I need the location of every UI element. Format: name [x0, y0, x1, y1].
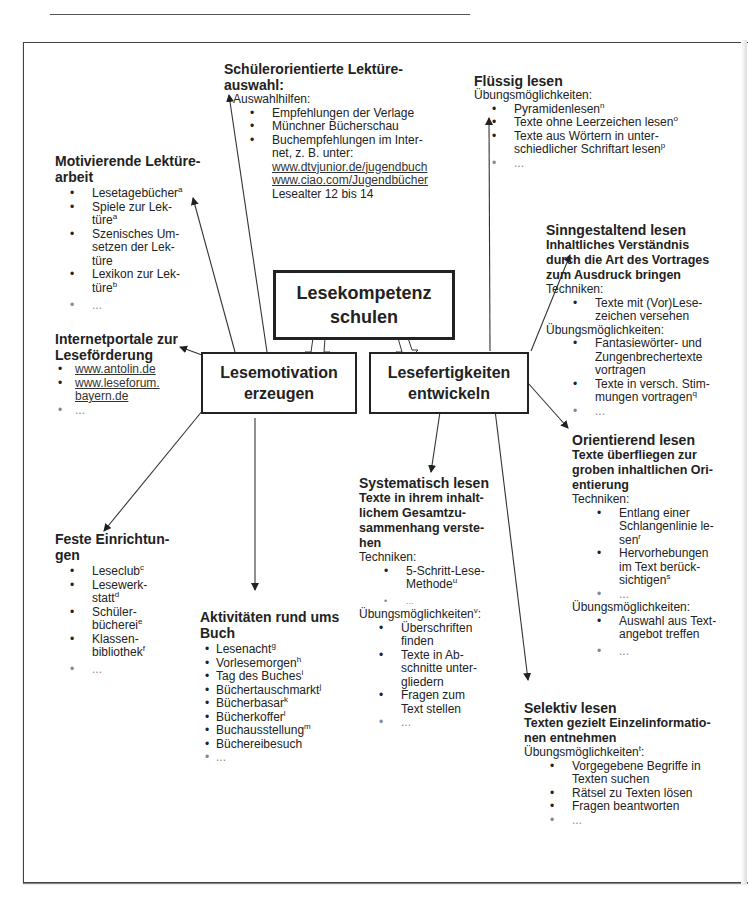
- list-item: ...: [462, 157, 734, 171]
- list-item: Empfehlungen der Verlage: [220, 107, 474, 121]
- node-subtitle: Inhaltliches Verständnisdurch die Art de…: [546, 238, 736, 283]
- link-dtvjunior[interactable]: www.dtvjunior.de/jugendbuch: [272, 160, 427, 174]
- list-item: ...: [40, 299, 215, 313]
- list-item: Fantasiewörter- undZungenbrechertextevor…: [543, 337, 736, 378]
- list-item: Szenisches Um-setzen der Lek-türe: [40, 228, 215, 269]
- node-fluessig-lesen: Flüssig lesen Übungsmöglichkeiten: Pyram…: [474, 73, 734, 170]
- label-techniken: Techniken:: [546, 283, 736, 297]
- center-box-lesekompetenz: Lesekompetenz schulen: [273, 270, 455, 340]
- list-item: Vorlesemorgenh: [200, 657, 360, 671]
- note-lesealter: Lesealter 12 bis 14: [272, 187, 373, 201]
- node-title: Sinngestaltend lesen: [546, 222, 736, 238]
- list-item: ...: [543, 405, 736, 419]
- list-item: ...: [349, 716, 509, 730]
- list-item: Lexikon zur Lek-türeb: [40, 268, 215, 295]
- node-subtitle: Texte in ihrem inhalt-lichem Gesamtzu-sa…: [359, 491, 509, 551]
- list-item: Rätsel zu Texten lösen: [520, 787, 739, 801]
- label-techniken: Techniken:: [359, 551, 509, 565]
- center-title-line1: Lesekompetenz: [296, 281, 431, 305]
- list-item: Lesetagebüchera: [40, 187, 215, 201]
- list-item: Leseclubc: [40, 565, 195, 579]
- node-orientierend: Orientierend lesen Texte überfliegen zur…: [572, 432, 742, 658]
- label-uebungen: Übungsmöglichkeitent:: [524, 746, 739, 760]
- list-item: ...: [354, 595, 509, 609]
- label-auswahlhilfen: Auswahlhilfen:: [224, 93, 474, 107]
- label-uebungen: Übungsmöglichkeiten:: [572, 601, 742, 615]
- list-item: ...: [200, 751, 360, 765]
- label-techniken: Techniken:: [572, 493, 742, 507]
- list-item: Bücherbasark: [200, 697, 360, 711]
- node-schuelerorientiert: Schülerorientierte Lektüre-auswahl: Ausw…: [224, 61, 474, 201]
- list-item: Buchempfehlungen im Inter-net, z. B. unt…: [220, 134, 474, 202]
- node-title: Feste Einrichtun-gen: [55, 531, 195, 563]
- list-item: Texte in Ab-schnitte unter-gliedern: [349, 649, 509, 690]
- node-feste-einrichtungen: Feste Einrichtun-gen Leseclubc Lesewerk-…: [55, 531, 195, 676]
- list-item: ...: [53, 404, 195, 418]
- list-item: Fragen beantworten: [520, 800, 739, 814]
- list-item: Lesenachtg: [200, 643, 360, 657]
- node-subtitle: Texten gezielt Einzelinformatio-nen entn…: [524, 716, 739, 746]
- list-item: Buchausstellungm: [200, 724, 360, 738]
- node-title: Flüssig lesen: [474, 73, 734, 89]
- box-lesemotivation-line1: Lesemotivation: [220, 362, 337, 383]
- node-title: Schülerorientierte Lektüre-auswahl:: [224, 61, 474, 93]
- list-item: Klassen-bibliothekf: [40, 633, 195, 660]
- list-item: ...: [520, 814, 739, 828]
- arrow-to-feste: [104, 410, 203, 531]
- node-motivierend: Motivierende Lektüre-arbeit Lesetagebüch…: [55, 153, 215, 313]
- list-item: 5-Schritt-Lese-Methodeu: [354, 565, 509, 592]
- arrow-to-systematisch: [431, 412, 440, 472]
- list-item: Texte in versch. Stim-mungen vortragenq: [543, 378, 736, 405]
- center-title-line2: schulen: [330, 305, 398, 329]
- list-item: Fragen zumText stellen: [349, 689, 509, 716]
- list-item: Spiele zur Lek-türea: [40, 201, 215, 228]
- box-lesefertigkeiten-line1: Lesefertigkeiten: [388, 362, 511, 383]
- box-lesemotivation-line2: erzeugen: [244, 383, 314, 404]
- list-item: Tag des Buchesi: [200, 670, 360, 684]
- list-item: www.leseforum.bayern.de: [53, 377, 195, 404]
- box-lesefertigkeiten: Lesefertigkeiten entwickeln: [369, 352, 529, 414]
- list-item: www.antolin.de: [53, 363, 195, 377]
- list-item: Bücherkofferl: [200, 711, 360, 725]
- node-title: Motivierende Lektüre-arbeit: [55, 153, 215, 185]
- list-item: Büchertauschmarktj: [200, 684, 360, 698]
- link-antolin[interactable]: www.antolin.de: [75, 362, 156, 376]
- node-aktivitaeten: Aktivitäten rund umsBuch Lesenachtg Vorl…: [200, 609, 360, 765]
- list-item: Vorgegebene Begriffe inTexten suchen: [520, 760, 739, 787]
- list-item: Texte mit (Vor)Lese-zeichen versehen: [543, 297, 736, 324]
- node-subtitle: Texte überfliegen zurgroben inhaltlichen…: [572, 448, 742, 493]
- list-item: Entlang einerSchlangenlinie le-senr: [567, 507, 742, 548]
- node-title: Internetportale zurLeseförderung: [55, 331, 195, 363]
- node-selektiv: Selektiv lesen Texten gezielt Einzelinfo…: [524, 700, 739, 827]
- list-item: ...: [567, 645, 742, 659]
- list-item: Überschriftenfinden: [349, 622, 509, 649]
- list-item: ...: [567, 588, 742, 602]
- list-item: Münchner Bücherschau: [220, 120, 474, 134]
- list-item: Auswahl aus Text-angebot treffen: [567, 615, 742, 642]
- box-lesemotivation: Lesemotivation erzeugen: [201, 352, 357, 414]
- link-leseforum[interactable]: www.leseforum.bayern.de: [69, 376, 160, 404]
- list-item: Lesewerk-stattd: [40, 579, 195, 606]
- node-title: Aktivitäten rund umsBuch: [200, 609, 360, 641]
- list-item: Hervorhebungenim Text berück-sichtigens: [567, 547, 742, 588]
- list-item: Texte aus Wörtern in unter-schiedlicher …: [462, 130, 734, 157]
- box-lesefertigkeiten-line2: entwickeln: [408, 383, 490, 404]
- list-item: Pyramidenlesenn: [462, 103, 734, 117]
- list-item: Texte ohne Leerzeichen leseno: [462, 116, 734, 130]
- node-title: Orientierend lesen: [572, 432, 742, 448]
- label-uebungen: Übungsmöglichkeiten:: [546, 324, 736, 338]
- node-sinngestaltend: Sinngestaltend lesen Inhaltliches Verstä…: [546, 222, 736, 418]
- node-systematisch: Systematisch lesen Texte in ihrem inhalt…: [359, 475, 509, 730]
- list-item: Büchereibesuch: [200, 738, 360, 752]
- node-title: Systematisch lesen: [359, 475, 509, 491]
- node-internetportale: Internetportale zurLeseförderung www.ant…: [55, 331, 195, 417]
- node-title: Selektiv lesen: [524, 700, 739, 716]
- list-item: Schüler-büchereie: [40, 606, 195, 633]
- list-item: ...: [40, 663, 195, 677]
- link-ciao[interactable]: www.ciao.com/Jugendbücher: [272, 173, 428, 187]
- label-uebungen: Übungsmöglichkeitenv:: [359, 608, 509, 622]
